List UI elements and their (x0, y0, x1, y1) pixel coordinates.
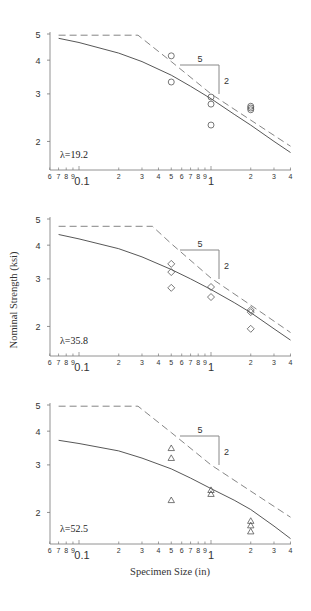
x-tick-label-minor: 2 (249, 173, 253, 180)
x-tick-label-minor: 2 (117, 547, 121, 554)
x-tick-label-minor: 6 (48, 547, 52, 554)
x-tick-label-minor: 8 (196, 547, 200, 554)
data-point-triangle (168, 445, 174, 451)
slope-triangle (180, 250, 219, 279)
lambda-annotation: λ=52.5 (60, 523, 88, 534)
x-tick-label-minor: 7 (57, 547, 61, 554)
x-tick-label-minor: 8 (196, 173, 200, 180)
x-tick-label-minor: 5 (169, 359, 173, 366)
x-tick-label-minor: 3 (140, 173, 144, 180)
y-tick-label: 5 (35, 30, 40, 40)
y-tick-label: 5 (35, 215, 40, 225)
x-tick-label-minor: 6 (48, 359, 52, 366)
y-tick-label: 4 (35, 241, 40, 251)
x-tick-label-minor: 6 (180, 547, 184, 554)
data-point-circle (208, 122, 214, 128)
x-tick-label-minor: 5 (169, 547, 173, 554)
panel-lambda-35-8: 234567890.123456789123452λ=35.8 (35, 215, 292, 374)
lambda-annotation: λ=35.8 (60, 335, 88, 346)
x-tick-label-minor: 4 (289, 359, 293, 366)
x-tick-label-minor: 4 (157, 173, 161, 180)
x-tick-label-minor: 4 (289, 547, 293, 554)
y-tick-label: 2 (35, 508, 40, 518)
data-point-diamond (168, 284, 175, 291)
x-tick-label-minor: 8 (196, 359, 200, 366)
panel-lambda-52-5: 234567890.123456789123452λ=52.5 (35, 401, 292, 562)
slope-run-label: 5 (197, 239, 202, 249)
data-point-triangle (168, 455, 174, 461)
x-tick-label-minor: 8 (64, 173, 68, 180)
x-tick-label-major: 1 (208, 549, 214, 561)
x-tick-label-minor: 7 (189, 547, 193, 554)
x-tick-label-major: 0.1 (74, 549, 89, 561)
x-tick-label-minor: 3 (272, 359, 276, 366)
x-tick-label-minor: 7 (57, 359, 61, 366)
x-tick-label-minor: 7 (189, 359, 193, 366)
panel-lambda-19-2: 234567890.123456789123452λ=19.2 (35, 30, 292, 188)
data-point-diamond (208, 294, 215, 301)
x-tick-label-minor: 2 (117, 359, 121, 366)
x-tick-label-minor: 2 (249, 547, 253, 554)
x-tick-label-minor: 7 (189, 173, 193, 180)
x-tick-label-minor: 7 (57, 173, 61, 180)
slope-run-label: 5 (197, 54, 202, 64)
data-point-circle (168, 53, 174, 59)
slope-triangle (180, 65, 219, 94)
x-tick-label-minor: 4 (157, 359, 161, 366)
y-tick-label: 4 (35, 427, 40, 437)
x-tick-label-minor: 8 (64, 359, 68, 366)
data-point-diamond (247, 325, 254, 332)
x-tick-label-major: 1 (208, 361, 214, 373)
slope-rise-label: 2 (224, 447, 229, 457)
dashed-curve (59, 35, 291, 146)
y-tick-label: 3 (35, 274, 40, 284)
data-point-triangle (208, 491, 214, 497)
data-point-circle (168, 79, 174, 85)
x-tick-label-major: 0.1 (74, 175, 89, 187)
y-tick-label: 2 (35, 137, 40, 147)
data-point-triangle (168, 497, 174, 503)
x-axis-title: Specimen Size (in) (130, 566, 210, 578)
x-tick-label-minor: 6 (48, 173, 52, 180)
data-point-diamond (168, 260, 175, 267)
solid-curve (59, 440, 291, 538)
y-tick-label: 3 (35, 89, 40, 99)
slope-run-label: 5 (197, 425, 202, 435)
x-tick-label-minor: 3 (140, 547, 144, 554)
data-point-triangle (248, 528, 254, 534)
x-tick-label-minor: 8 (64, 547, 68, 554)
x-tick-label-minor: 9 (203, 547, 207, 554)
lambda-annotation: λ=19.2 (60, 149, 88, 160)
x-tick-label-minor: 9 (203, 173, 207, 180)
x-tick-label-minor: 5 (169, 173, 173, 180)
x-tick-label-minor: 2 (117, 173, 121, 180)
x-tick-label-major: 1 (208, 175, 214, 187)
slope-triangle (180, 436, 219, 465)
x-tick-label-minor: 4 (157, 547, 161, 554)
slope-rise-label: 2 (224, 76, 229, 86)
x-tick-label-major: 0.1 (74, 361, 89, 373)
x-tick-label-minor: 3 (140, 359, 144, 366)
y-axis-title: Nominal Strength (ksi) (8, 251, 20, 348)
x-tick-label-minor: 3 (272, 547, 276, 554)
x-tick-label-minor: 6 (180, 173, 184, 180)
y-tick-label: 2 (35, 322, 40, 332)
x-tick-label-minor: 4 (289, 173, 293, 180)
data-point-circle (208, 101, 214, 107)
x-tick-label-minor: 2 (249, 359, 253, 366)
y-tick-label: 5 (35, 401, 40, 411)
y-tick-label: 4 (35, 56, 40, 66)
x-tick-label-minor: 6 (180, 359, 184, 366)
dashed-curve (59, 406, 291, 517)
x-tick-label-minor: 9 (203, 359, 207, 366)
slope-rise-label: 2 (224, 261, 229, 271)
y-tick-label: 3 (35, 460, 40, 470)
figure: 234567890.123456789123452λ=19.2 23456789… (0, 0, 311, 611)
x-tick-label-minor: 3 (272, 173, 276, 180)
